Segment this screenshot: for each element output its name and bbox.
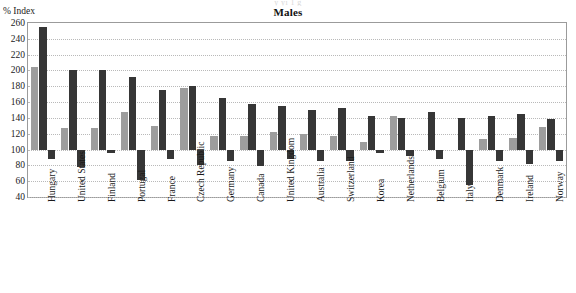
country-bar-group [240,23,264,197]
country-bar-group [360,23,384,197]
x-axis-label: Finland [107,173,117,202]
y-axis-tick: 80 [16,160,26,170]
y-axis-tick: 180 [11,81,25,91]
y-axis-tick: 240 [11,34,25,44]
bar-series-dark [517,114,524,150]
x-axis-label: United States [77,151,87,202]
bar-series-dark [308,110,315,150]
bar-series-dark [99,70,106,149]
bar-series-dark [428,112,435,150]
bar-series-dark [278,106,285,150]
bar-series-gray [390,116,397,150]
y-axis-tick: 100 [11,145,25,155]
x-axis-label: Denmark [495,167,505,202]
x-axis-label: Portugal [137,170,147,202]
bar-series-gray [61,128,68,149]
bar-series-dark [488,116,495,150]
bar-series-dark [458,118,465,150]
country-bar-group [91,23,115,197]
x-axis: HungaryUnited StatesFinlandPortugalFranc… [28,200,568,293]
y-axis-tick: 200 [11,65,25,75]
bar-series-gray [121,112,128,150]
bar-series-below-baseline [406,150,413,156]
bar-series-gray [31,67,38,150]
bar-series-gray [151,126,158,150]
bar-series-gray [360,142,367,150]
country-bar-group [449,23,473,197]
x-axis-label: Hungary [47,169,57,202]
y-axis-tick: 260 [11,18,25,28]
y-axis-tick: 40 [16,192,26,202]
x-axis-label: Netherlands [406,156,416,202]
y-axis: 406080100120140160180200220240260 [0,14,25,209]
bar-series-gray [479,139,486,149]
x-axis-label: United Kingdom [286,138,296,202]
bar-series-gray [539,127,546,149]
bar-series-dark [368,116,375,150]
x-axis-label: Australia [316,167,326,202]
y-axis-tick: 140 [11,113,25,123]
y-axis-tick: 160 [11,97,25,107]
bar-series-below-baseline [466,150,473,186]
y-axis-tick: 220 [11,50,25,60]
bar-series-gray [270,132,277,149]
y-axis-tick: 60 [16,176,26,186]
bar-series-dark [248,104,255,150]
bar-series-gray [240,136,247,149]
x-axis-label: France [167,176,177,202]
bar-series-dark [39,27,46,150]
bar-series-below-baseline [48,150,55,159]
bar-series-gray [91,128,98,149]
bar-series-dark [69,70,76,149]
bar-series-below-baseline [436,150,443,159]
x-axis-label: Belgium [436,169,446,202]
x-axis-label: Czech Republic [196,142,206,202]
bar-series-below-baseline [526,150,533,164]
y-axis-tick: 120 [11,129,25,139]
x-axis-label: Norway [555,171,565,202]
x-axis-label: Italy [465,185,475,202]
bar-series-dark [129,77,136,150]
country-bar-group [151,23,175,197]
bar-series-below-baseline [317,150,324,161]
bar-series-dark [159,90,166,149]
bar-series-below-baseline [496,150,503,161]
bars-layer [28,23,566,197]
bar-series-dark [219,98,226,149]
bar-series-dark [338,108,345,149]
x-axis-label: Ireland [525,175,535,202]
x-axis-label: Germany [226,167,236,202]
bar-series-gray [210,136,217,149]
bar-series-below-baseline [376,150,383,154]
bar-series-dark [547,119,554,149]
bar-series-below-baseline [556,150,563,161]
bar-series-gray [300,134,307,150]
bar-series-below-baseline [167,150,174,159]
bar-series-dark [398,118,405,150]
bar-series-gray [180,88,187,150]
chart-title: Males [0,6,576,18]
bar-series-dark [189,86,196,149]
x-axis-label: Switzerland [346,157,356,202]
bar-series-below-baseline [227,150,234,161]
bar-series-below-baseline [257,150,264,167]
x-axis-label: Canada [256,174,266,203]
bar-series-below-baseline [107,150,114,154]
bar-series-gray [509,138,516,150]
country-bar-group [509,23,533,197]
x-axis-label: Korea [376,179,386,202]
bar-series-gray [330,136,337,149]
